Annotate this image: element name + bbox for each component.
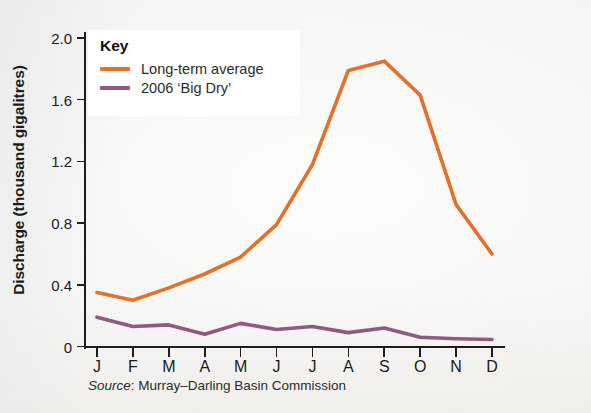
chart-figure: Discharge (thousand gigalitres) 00.40.81… — [0, 0, 591, 413]
legend-title: Key — [100, 37, 290, 55]
chart-legend: Key Long-term average2006 ‘Big Dry’ — [88, 30, 300, 116]
legend-entry-label: 2006 ‘Big Dry’ — [141, 80, 231, 96]
legend-entry: Long-term average — [100, 61, 290, 77]
legend-entries: Long-term average2006 ‘Big Dry’ — [100, 61, 290, 96]
legend-swatch-icon — [100, 86, 130, 91]
source-text: Murray–Darling Basin Commission — [138, 378, 346, 393]
legend-entry: 2006 ‘Big Dry’ — [100, 80, 290, 96]
source-prefix: Source — [88, 378, 131, 393]
source-note: Source: Murray–Darling Basin Commission — [88, 378, 346, 393]
legend-swatch-icon — [100, 67, 130, 72]
legend-entry-label: Long-term average — [141, 61, 264, 77]
series-line — [97, 317, 492, 339]
